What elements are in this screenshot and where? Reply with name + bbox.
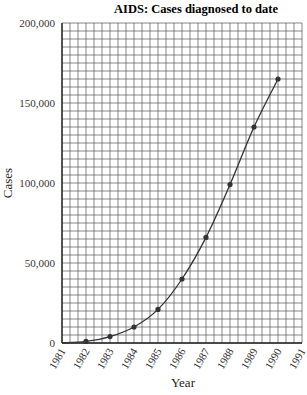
chart-title: AIDS: Cases diagnosed to date [114,2,278,16]
x-tick-label: 1983 [94,346,116,371]
data-point-marker [203,235,208,240]
x-tick-label: 1988 [214,346,236,371]
y-tick-label: 150,000 [19,97,55,109]
y-tick-label: 0 [50,337,56,349]
data-point-marker [131,324,136,329]
data-point-marker [179,276,184,281]
series-line [62,79,278,343]
y-tick-label: 50,000 [25,257,56,269]
y-axis-label: Cases [0,168,15,198]
x-tick-label: 1989 [238,346,260,371]
x-tick-label: 1991 [286,346,307,371]
y-tick-label: 100,000 [19,177,55,189]
plot-grid [62,23,302,343]
chart: AIDS: Cases diagnosed to date 050,000100… [0,0,307,395]
data-point-marker [227,182,232,187]
x-tick-label: 1984 [118,346,140,371]
x-tick-label: 1985 [142,346,164,371]
y-tick-label: 200,000 [19,17,55,29]
data-series [62,76,281,344]
y-axis-ticks: 050,000100,000150,000200,000 [19,17,55,349]
x-axis-label: Year [171,375,196,390]
x-axis-ticks: 1981198219831984198519861987198819891990… [46,346,307,371]
data-point-marker [275,76,280,81]
data-point-marker [251,124,256,129]
x-tick-label: 1987 [190,346,212,371]
data-point-marker [155,307,160,312]
x-tick-label: 1982 [70,346,91,371]
x-tick-label: 1990 [262,346,284,371]
data-point-marker [83,339,88,344]
x-tick-label: 1981 [46,346,67,371]
x-tick-label: 1986 [166,346,188,371]
data-point-marker [107,334,112,339]
